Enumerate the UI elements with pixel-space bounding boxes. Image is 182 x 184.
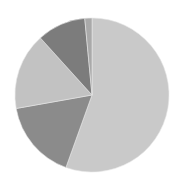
pie-chart xyxy=(0,0,182,184)
